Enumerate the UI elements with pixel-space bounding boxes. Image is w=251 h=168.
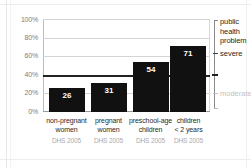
bracket-threshold-tick xyxy=(212,74,218,76)
figure-border-top xyxy=(0,4,251,5)
annotation-severe-label: severe xyxy=(220,50,251,58)
ytick-label-60: 60% xyxy=(2,52,38,59)
xlabel-pregnant-women: pregnant women DHS 2005 xyxy=(85,116,132,145)
ytick-label-40: 40% xyxy=(2,71,38,78)
xlabel-source-pregnant-women: DHS 2005 xyxy=(85,137,132,145)
annotation-title-line3: problem xyxy=(220,36,246,45)
bar-preschool-age-children[interactable]: 54 xyxy=(133,62,169,112)
bar-pregnant-women[interactable]: 31 xyxy=(91,83,127,112)
ytick-label-0: 0% xyxy=(2,108,38,115)
bar-group: 26 31 54 71 xyxy=(43,19,210,112)
figure-border-left-inner xyxy=(10,0,11,168)
figure-border-left xyxy=(6,0,7,168)
annotation-title-line2: health xyxy=(220,27,240,36)
xlabel-line2-pregnant-women: women xyxy=(85,125,132,134)
bar-value-non-pregnant-women: 26 xyxy=(49,91,85,100)
bracket-outer-bottom-arm xyxy=(214,108,218,109)
annotation-title-line1: public xyxy=(220,17,239,26)
chart-figure: 100% 80% 60% 40% 20% 0% 26 31 54 xyxy=(0,0,251,168)
bar-non-pregnant-women[interactable]: 26 xyxy=(49,88,85,112)
xlabel-line2-non-pregnant-women: women xyxy=(43,125,90,134)
xlabel-non-pregnant-women: non-pregnant women DHS 2005 xyxy=(43,116,90,145)
ytick-label-20: 20% xyxy=(2,89,38,96)
x-axis-labels: non-pregnant women DHS 2005 pregnant wom… xyxy=(43,116,210,162)
xlabel-line1-children-under-2: children xyxy=(165,116,212,125)
xlabel-line1-pregnant-women: pregnant xyxy=(85,116,132,125)
annotation-moderate-label: moderate xyxy=(220,90,251,98)
bar-children-under-2[interactable]: 71 xyxy=(170,46,206,112)
xlabel-source-non-pregnant-women: DHS 2005 xyxy=(43,137,90,145)
bar-value-pregnant-women: 31 xyxy=(91,86,127,95)
bar-value-children-under-2: 71 xyxy=(170,49,206,58)
bracket-severe-tick xyxy=(213,53,218,54)
xlabel-children-under-2: children < 2 years DHS 2005 xyxy=(165,116,212,145)
ytick-label-100: 100% xyxy=(2,16,38,23)
annotation-public-health-problem: public health problem xyxy=(220,17,251,46)
ytick-label-80: 80% xyxy=(2,34,38,41)
xlabel-line2-children-under-2: < 2 years xyxy=(165,125,212,134)
xlabel-line1-non-pregnant-women: non-pregnant xyxy=(43,116,90,125)
bar-value-preschool-age-children: 54 xyxy=(133,65,169,74)
bracket-outer-top-arm xyxy=(214,20,218,21)
bracket-outer-spine xyxy=(214,20,215,109)
annotation-bracket-group: public health problem severe moderate xyxy=(212,19,251,112)
bracket-moderate-tick xyxy=(213,93,218,94)
xlabel-source-children-under-2: DHS 2005 xyxy=(165,137,212,145)
